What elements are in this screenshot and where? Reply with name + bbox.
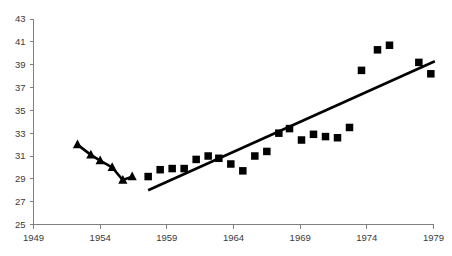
data-point-square [180,165,188,173]
data-point-square [263,148,271,156]
y-tick-label: 43 [15,13,26,24]
data-point-square [358,67,366,75]
series-lines-group [78,145,133,180]
y-tick-label: 41 [15,36,26,47]
x-tick-label: 1964 [223,232,244,243]
data-point-square [286,125,294,133]
chart-plot-area: 25272931333537394143 1949195419591964196… [0,0,452,256]
x-axis-ticks: 1949195419591964196919741979 [23,225,444,243]
y-tick-label: 29 [15,173,26,184]
y-tick-label: 37 [15,82,26,93]
data-point-square [144,173,152,181]
series-connector-early-series [78,145,133,180]
x-tick-label: 1954 [90,232,111,243]
y-tick-label: 35 [15,105,26,116]
y-tick-label: 27 [15,196,26,207]
data-point-triangle [73,139,82,148]
y-tick-label: 33 [15,128,26,139]
axes-group [34,19,434,225]
y-tick-label: 25 [15,219,26,230]
data-point-square [215,155,223,163]
data-point-square [227,160,235,168]
x-tick-label: 1949 [23,232,44,243]
data-markers-group [73,42,435,184]
data-point-triangle [128,171,137,180]
x-tick-label: 1959 [156,232,177,243]
data-point-square [415,59,423,66]
data-point-square [322,133,330,141]
data-point-square [374,46,382,54]
data-point-square [168,165,176,173]
data-point-square [310,131,318,139]
chart-container: 25272931333537394143 1949195419591964196… [0,0,452,256]
data-point-square [204,152,212,160]
y-tick-label: 31 [15,150,26,161]
y-tick-label: 39 [15,59,26,70]
data-point-square [251,152,258,160]
y-axis-ticks: 25272931333537394143 [15,13,34,230]
data-point-square [192,156,200,164]
data-point-square [239,167,247,175]
data-point-square [275,129,283,137]
data-point-square [427,70,435,78]
data-point-square [298,136,306,144]
data-point-square [334,134,342,142]
data-point-square [346,124,354,132]
x-tick-label: 1969 [290,232,311,243]
x-tick-label: 1979 [423,232,444,243]
data-point-square [386,42,394,50]
data-point-square [156,166,164,174]
x-tick-label: 1974 [356,232,377,243]
